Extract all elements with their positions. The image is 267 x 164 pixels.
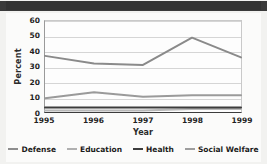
plot-wrapper: Percent 0102030405060 199519961997199819… (6, 16, 261, 124)
x-tick-label: 1998 (173, 116, 213, 125)
chart-page: Percent 0102030405060 199519961997199819… (0, 0, 267, 164)
top-banner-bar (0, 1, 267, 11)
legend-label: Social Welfare (198, 145, 259, 154)
legend-line-icon (8, 148, 18, 151)
y-tick-label: 50 (20, 32, 40, 39)
y-tick-label: 10 (20, 94, 40, 101)
series-line (45, 38, 241, 65)
y-tick-label: 40 (20, 48, 40, 55)
legend-label: Defense (21, 145, 56, 154)
legend-line-icon (133, 148, 143, 151)
legend-line-icon (67, 148, 77, 151)
legend-label: Health (146, 145, 174, 154)
legend-item[interactable]: Education (67, 145, 122, 154)
x-tick-label: 1997 (123, 116, 163, 125)
x-tick-label: 1999 (222, 116, 262, 125)
top-banner-inner (6, 1, 261, 10)
legend-item[interactable]: Health (133, 145, 174, 154)
legend-label: Education (80, 145, 122, 154)
series-line (45, 109, 241, 111)
y-tick-label: 20 (20, 79, 40, 86)
y-tick-label: 60 (20, 17, 40, 24)
plot-area (44, 20, 242, 113)
x-tick-label: 1996 (74, 116, 114, 125)
y-tick-label: 30 (20, 63, 40, 70)
x-tick-label: 1995 (24, 116, 64, 125)
legend-line-icon (185, 148, 195, 151)
series-line (45, 92, 241, 98)
chart-card: Percent 0102030405060 199519961997199819… (6, 13, 261, 162)
legend-item[interactable]: Social Welfare (185, 145, 259, 154)
legend-item[interactable]: Defense (8, 145, 56, 154)
x-axis-title: Year (44, 128, 242, 137)
chart-legend: DefenseEducationHealthSocial Welfare (6, 141, 261, 157)
series-lines (45, 21, 241, 112)
